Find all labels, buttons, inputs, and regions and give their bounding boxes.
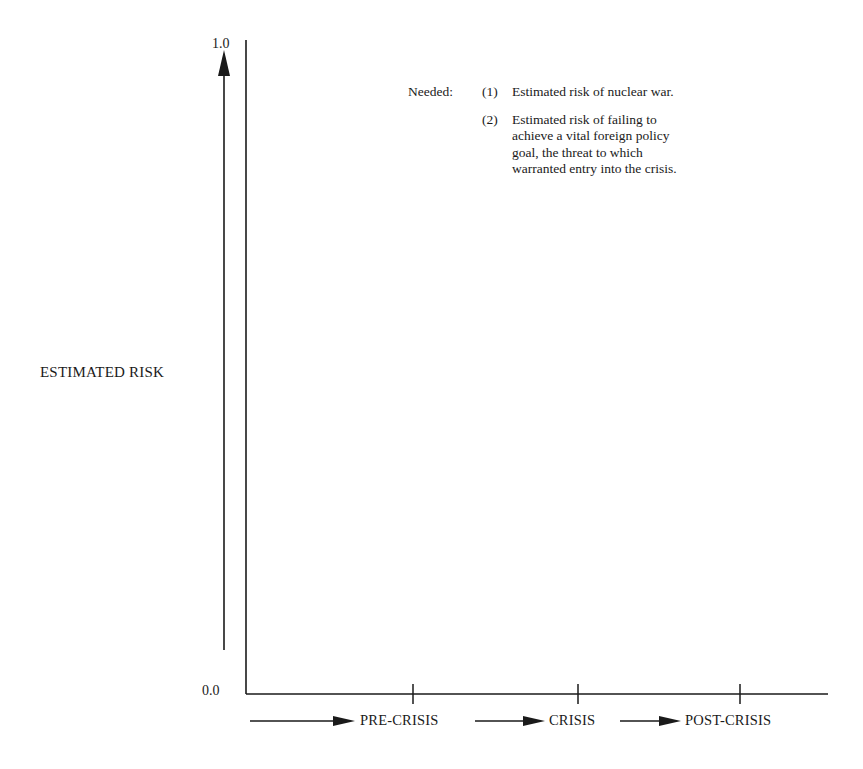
- phase-arrow-icon-1: [250, 716, 355, 726]
- note-item-number: (2): [482, 112, 512, 178]
- y-axis-title: ESTIMATED RISK: [40, 364, 164, 381]
- phase-arrow-icon-3: [620, 716, 681, 726]
- phase-label-post-crisis: POST-CRISIS: [685, 712, 771, 729]
- note-item-2: (2) Estimated risk of failing to achieve…: [408, 112, 732, 178]
- phase-label-crisis: CRISIS: [549, 712, 595, 729]
- phase-label-pre-crisis: PRE-CRISIS: [360, 712, 439, 729]
- note-item-text: Estimated risk of failing to achieve a v…: [512, 112, 682, 178]
- note-heading: Needed:: [408, 84, 482, 101]
- note-indent: [408, 112, 482, 178]
- y-axis-bottom-label: 0.0: [202, 684, 220, 698]
- note-item-text: Estimated risk of nuclear war.: [512, 84, 732, 101]
- phase-arrow-icon-2: [475, 716, 545, 726]
- y-axis-top-label: 1.0: [212, 37, 230, 51]
- note-item-number: (1): [482, 84, 512, 101]
- y-direction-arrow-icon: [218, 50, 230, 650]
- note-item-1: Needed: (1) Estimated risk of nuclear wa…: [408, 84, 732, 101]
- needed-note: Needed: (1) Estimated risk of nuclear wa…: [408, 84, 732, 178]
